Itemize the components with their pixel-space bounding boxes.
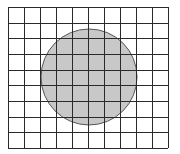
grid-lines bbox=[8, 7, 169, 149]
grid-diagram bbox=[0, 0, 180, 154]
